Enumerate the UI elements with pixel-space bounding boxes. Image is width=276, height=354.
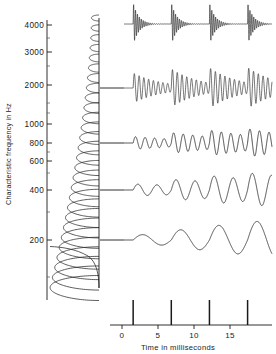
waveform-panel bbox=[124, 221, 272, 253]
waveform-panel bbox=[124, 173, 272, 205]
y-tick-label-600: 600 bbox=[29, 157, 44, 166]
cochlear-impulse-response-figure: Characteristic frequency in Hz 400 bbox=[0, 0, 276, 354]
y-tick-label-800: 800 bbox=[29, 139, 44, 148]
y-tick-label-2000: 2000 bbox=[25, 81, 45, 90]
x-tick-label-5: 5 bbox=[156, 331, 161, 340]
y-axis-label: Characteristic frequency in Hz bbox=[4, 103, 13, 205]
waveform-panel bbox=[124, 129, 272, 156]
y-tick-label-1000: 1000 bbox=[25, 120, 45, 129]
stimulus-impulse-train bbox=[110, 300, 272, 329]
x-tick-label-0: 0 bbox=[120, 331, 125, 340]
tuning-curve bbox=[69, 189, 99, 206]
x-tick-label-15: 15 bbox=[225, 331, 235, 340]
x-axis-tick-labels: 0 5 10 15 bbox=[120, 331, 235, 340]
x-axis-ticks bbox=[122, 325, 230, 329]
x-tick-label-10: 10 bbox=[189, 331, 199, 340]
impulse-response-waveform-panels bbox=[124, 5, 272, 254]
y-axis-label-text: Characteristic frequency in Hz bbox=[4, 103, 13, 205]
x-axis-label: Time in milliseconds bbox=[141, 343, 215, 352]
tuning-curve bbox=[88, 64, 99, 72]
tuning-curve bbox=[73, 170, 99, 186]
y-axis-major-ticks bbox=[47, 25, 52, 240]
y-tick-label-4000: 4000 bbox=[25, 21, 45, 30]
waveform-panel bbox=[124, 5, 272, 41]
tuning-curve bbox=[90, 44, 99, 51]
filterbank-tuning-curves bbox=[50, 15, 99, 301]
tuning-curve bbox=[87, 74, 99, 83]
tuning-curve bbox=[80, 132, 99, 145]
y-axis-tick-labels: 4000 3000 2000 1000 800 600 400 200 bbox=[25, 21, 45, 245]
y-tick-label-200: 200 bbox=[29, 236, 44, 245]
tuning-curve bbox=[91, 35, 99, 42]
tuning-curve bbox=[84, 103, 99, 114]
tuning-curve bbox=[71, 180, 99, 197]
y-tick-label-400: 400 bbox=[29, 186, 44, 195]
waveform-panel bbox=[124, 68, 272, 106]
tuning-curve bbox=[91, 25, 99, 31]
y-tick-label-3000: 3000 bbox=[25, 48, 45, 57]
tuning-curve bbox=[86, 83, 99, 93]
tuning-curve bbox=[91, 15, 99, 21]
frequency-axis bbox=[47, 20, 52, 300]
tuning-curve bbox=[85, 93, 99, 103]
tuning-curve bbox=[89, 54, 99, 62]
panel-connector-lines bbox=[100, 88, 124, 240]
impulse-spikes bbox=[133, 300, 247, 325]
